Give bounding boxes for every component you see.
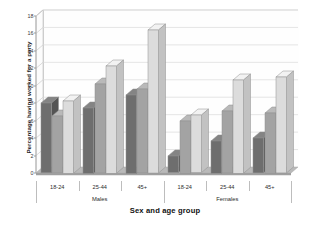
bar [148, 30, 159, 173]
bar [52, 116, 63, 173]
y-tick-mark [34, 138, 37, 139]
x-category-label: 45+ [265, 184, 275, 190]
x-group-label: Males [92, 196, 107, 202]
bar [191, 115, 202, 173]
y-tick-mark [34, 85, 37, 86]
bar [180, 121, 191, 173]
x-category-label: 45+ [138, 184, 148, 190]
bar [137, 89, 148, 173]
bar [41, 103, 52, 173]
y-tick-mark [34, 103, 37, 104]
x-category-label: 18-24 [178, 184, 192, 190]
plot-area: 024681012141618 18-2425-4445+18-2425-444… [36, 10, 298, 180]
bar [83, 108, 94, 173]
y-tick-mark [34, 68, 37, 69]
category-separator [79, 181, 80, 191]
bar [106, 66, 117, 173]
bar [168, 156, 179, 173]
y-tick-mark [34, 16, 37, 17]
bar [276, 77, 287, 173]
x-category-label: 18-24 [50, 184, 64, 190]
bar [63, 101, 74, 173]
bar [211, 141, 222, 173]
y-tick-mark [34, 155, 37, 156]
x-group-label: Females [216, 196, 238, 202]
category-separator [121, 181, 122, 191]
x-axis-title: Sex and age group [30, 206, 300, 215]
bar-chart: Percentage having worked for a party 024… [0, 0, 314, 226]
category-separator [249, 181, 250, 191]
bar [95, 84, 106, 173]
category-separator [36, 181, 37, 203]
category-separator [164, 181, 165, 203]
bar [233, 80, 244, 173]
x-category-label: 25-44 [93, 184, 107, 190]
bar [253, 138, 264, 173]
bar [222, 111, 233, 173]
category-separator [291, 181, 292, 203]
bar [126, 95, 137, 174]
category-separator [206, 181, 207, 191]
y-tick-mark [34, 120, 37, 121]
x-category-label: 25-44 [220, 184, 234, 190]
y-tick-mark [34, 50, 37, 51]
y-tick-mark [34, 33, 37, 34]
bar [265, 113, 276, 173]
y-tick-mark [34, 173, 37, 174]
